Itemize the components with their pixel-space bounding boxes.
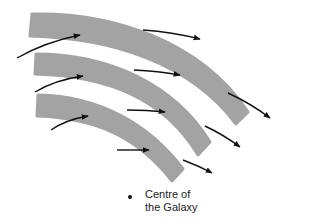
arrow-right-3-icon bbox=[183, 160, 212, 173]
label-line-1: Centre of bbox=[145, 188, 198, 201]
label-line-2: the Galaxy bbox=[145, 201, 198, 214]
galaxy-centre-dot bbox=[128, 195, 132, 199]
galaxy-centre-label: Centre of the Galaxy bbox=[145, 188, 198, 214]
